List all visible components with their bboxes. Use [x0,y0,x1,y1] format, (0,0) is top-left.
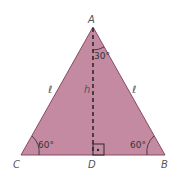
side-label-right: ℓ [132,84,136,95]
right-angle-label: 60° [130,140,146,150]
vertex-label-b: B [161,159,168,170]
height-label: h [84,84,90,95]
left-angle-label: 60° [38,140,54,150]
equilateral-triangle-diagram: A B C D ℓ ℓ h 30° 60° 60° [0,0,185,174]
right-angle-dot [97,149,99,151]
apex-angle-label: 30° [94,51,110,61]
vertex-label-c: C [13,159,20,170]
vertex-label-a: A [87,14,95,25]
vertex-label-d: D [88,159,96,170]
side-label-left: ℓ [48,84,52,95]
